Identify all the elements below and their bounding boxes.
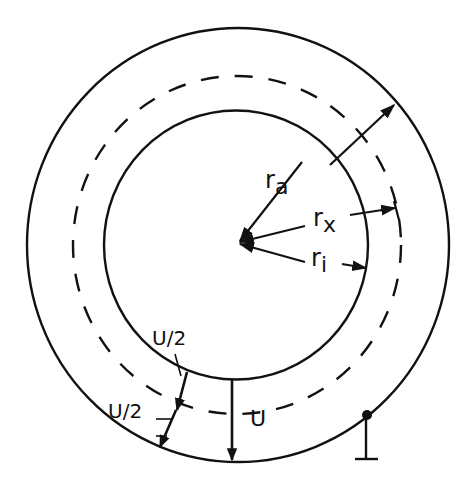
label-u-half-top: U/2: [152, 326, 186, 350]
dashed-circle-rx: [73, 76, 401, 414]
ri-arrow: [240, 244, 305, 262]
ri-leader: [342, 264, 366, 268]
label-ra: ra: [265, 166, 288, 199]
inner-circle: [104, 111, 368, 380]
label-rx: rx: [313, 204, 336, 237]
rx-tick: [394, 201, 399, 220]
coax-diagram: ra rx ri U/2 U/2 U: [0, 0, 469, 489]
rx-leader: [350, 208, 395, 215]
u-half-arrow-2: [160, 410, 176, 447]
outer-circle: [27, 28, 449, 462]
ground-symbol: [355, 410, 378, 459]
label-u-half-bottom: U/2: [108, 399, 142, 423]
label-ri: ri: [311, 244, 327, 277]
label-u: U: [250, 406, 266, 431]
voltage-arrows: [160, 372, 232, 460]
